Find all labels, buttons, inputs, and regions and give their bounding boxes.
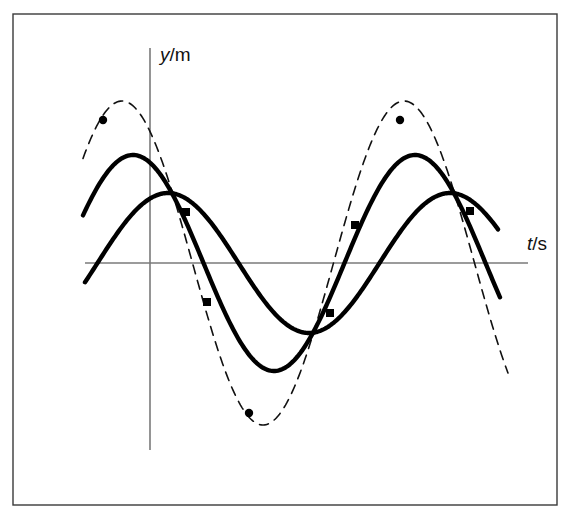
data-point-marker [351,221,359,229]
wave-diagram-figure: y/m t/s [0,0,573,524]
data-point-marker [466,207,474,215]
x-axis-label: t/s [527,233,547,254]
y-axis-label: y/m [158,44,191,65]
figure-canvas: y/m t/s [0,0,573,524]
data-point-marker [99,116,107,124]
data-point-marker [245,409,253,417]
data-point-marker [326,309,334,317]
data-point-marker [396,116,404,124]
data-point-marker [182,208,190,216]
data-point-marker [203,298,211,306]
